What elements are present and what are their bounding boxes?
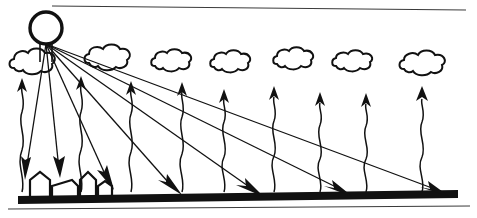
top-border [52, 6, 466, 10]
heat-arrow-9 [416, 86, 428, 192]
house-2-icon [52, 180, 78, 196]
building-group [30, 172, 112, 196]
heat-arrow-group [17, 76, 428, 192]
bottom-border [8, 206, 470, 209]
heat-arrow-5 [219, 89, 229, 192]
cloud-5-icon [273, 47, 313, 69]
ground-bar [18, 190, 458, 204]
cloud-7-icon [400, 51, 445, 76]
solar-radiation-diagram [0, 0, 477, 218]
sun-ray-1 [21, 44, 46, 180]
sun-icon [30, 12, 62, 44]
cloud-6-icon [332, 50, 372, 71]
sun-ray-4 [46, 44, 182, 195]
cloud-3-icon [151, 49, 191, 71]
heat-arrow-6 [269, 86, 279, 192]
cloud-4-icon [210, 50, 250, 72]
heat-arrow-8 [361, 93, 371, 192]
cloud-group [10, 45, 445, 76]
diagram-canvas [0, 0, 477, 218]
house-1-icon [30, 172, 50, 196]
